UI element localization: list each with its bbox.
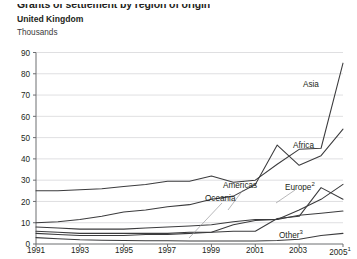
series-label-other: Other3 [279,229,303,240]
y-tick-label: 50 [8,134,30,143]
y-tick-label: 80 [8,70,30,79]
gridlines [36,53,343,223]
data-lines [36,63,343,241]
y-tick-label: 20 [8,198,30,207]
x-tick-label: 1993 [60,246,100,255]
y-tick-label: 30 [8,176,30,185]
x-tick-label: 2001 [235,246,275,255]
series-label-europe-text: Europe [285,183,311,192]
x-tick-label: 1997 [147,246,187,255]
series-label-europe-superscript: 2 [311,181,314,187]
y-tick-label: 90 [8,49,30,58]
y-tick-label: 70 [8,91,30,100]
series-label-other-text: Other [279,231,299,240]
y-tick-label: 60 [8,113,30,122]
x-tick-last-year: 2005 [329,248,347,257]
series-label-africa: Africa [293,141,314,150]
y-tick-label: 10 [8,219,30,228]
x-tick-last-superscript: 1 [347,246,350,252]
series-label-europe: Europe2 [285,181,315,192]
line-chart-plot [0,0,357,259]
series-label-other-superscript: 3 [299,229,302,235]
x-tick-label: 1999 [191,246,231,255]
x-tick-label: 1991 [16,246,56,255]
chart-page: Grants of settlement by region of origin… [0,0,357,259]
series-line-asia [36,63,343,191]
series-label-americas: Americas [223,181,257,190]
x-tick-label-last: 20051 [320,246,357,257]
x-tick-label: 2003 [278,246,318,255]
y-tick-label: 40 [8,155,30,164]
x-tick-label: 1995 [104,246,144,255]
series-label-oceania: Oceania [205,194,236,203]
series-label-asia: Asia [303,80,319,89]
